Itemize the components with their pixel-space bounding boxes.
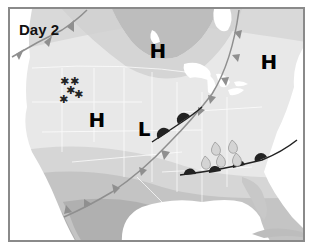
map-title: Day 2 [19,21,59,38]
high-pressure-marker: H [261,53,278,72]
low-pressure-marker: L [138,120,151,139]
high-pressure-marker: H [89,111,106,130]
snowflake-icon: ✱ [59,94,68,105]
high-pressure-marker: H [150,42,167,61]
snowflake-icon: ✱ [74,89,83,100]
